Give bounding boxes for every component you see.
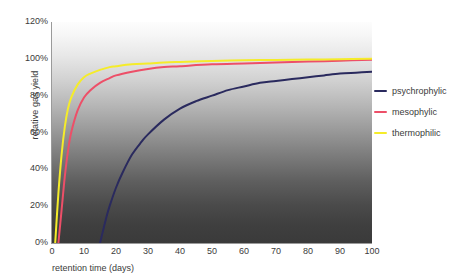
y-tick-label: 40% [14,164,48,173]
legend-item-psychrophylic[interactable]: psychrophylic [374,82,462,100]
plot-area [52,22,372,243]
legend: psychrophylicmesophylicthermophilic [374,82,462,145]
legend-item-mesophylic[interactable]: mesophylic [374,103,462,121]
x-axis-line [51,243,372,244]
x-axis-title: retention time (days) [52,263,372,273]
x-tick-label: 100 [352,247,392,256]
legend-item-thermophilic[interactable]: thermophilic [374,124,462,142]
series-lines [52,22,372,243]
y-tick-label: 120% [14,17,48,26]
legend-label: psychrophylic [392,86,447,96]
y-tick-label: 80% [14,91,48,100]
y-tick-label: 20% [14,201,48,210]
gas-yield-line-chart: relative gas yield 0%20%40%60%80%100%120… [0,0,464,280]
legend-label: mesophylic [392,107,437,117]
series-line-thermophilic [55,59,372,243]
x-axis-tick-labels: 0102030405060708090100 [52,247,372,261]
legend-swatch-icon [374,132,387,134]
y-tick-label: 100% [14,54,48,63]
legend-label: thermophilic [392,128,441,138]
legend-swatch-icon [374,111,387,113]
series-line-mesophylic [58,60,372,243]
y-tick-label: 60% [14,128,48,137]
series-line-psychrophylic [100,72,372,243]
legend-swatch-icon [374,90,387,92]
y-axis-tick-labels: 0%20%40%60%80%100%120% [10,0,48,280]
y-tick-label: 0% [14,238,48,247]
